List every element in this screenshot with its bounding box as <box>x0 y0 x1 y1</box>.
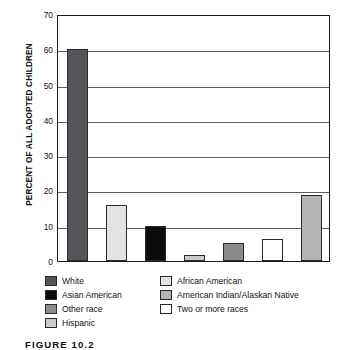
legend-item-african-american[interactable]: African American <box>160 276 335 286</box>
legend-swatch-asian-american <box>45 290 57 300</box>
y-tick-label-30: 30 <box>44 151 53 161</box>
legend-label-hispanic: Hispanic <box>62 319 95 328</box>
bar-hispanic <box>184 255 205 261</box>
bar-african-american <box>106 205 127 261</box>
legend-label-african-american: African American <box>177 277 242 286</box>
legend-swatch-other-race <box>45 304 57 314</box>
legend-item-hispanic[interactable]: Hispanic <box>45 318 160 328</box>
figure-caption: FIGURE 10.2 <box>25 339 95 350</box>
legend-label-two-or-more-races: Two or more races <box>177 305 248 314</box>
legend-item-white[interactable]: White <box>45 276 160 286</box>
legend-item-american-indian-alaskan-native[interactable]: American Indian/Alaskan Native <box>160 290 335 300</box>
legend-label-white: White <box>62 277 84 286</box>
y-tick-label-20: 20 <box>44 186 53 196</box>
legend-swatch-african-american <box>160 276 172 286</box>
legend-swatch-white <box>45 276 57 286</box>
bar-asian-american <box>145 226 166 261</box>
y-tick-label-60: 60 <box>44 45 53 55</box>
legend-label-other-race: Other race <box>62 305 103 314</box>
bar-two-or-more-races <box>262 239 283 261</box>
y-axis-title: PERCENT OF ALL ADOPTED CHILDREN <box>25 10 34 240</box>
plot-area <box>57 15 330 262</box>
legend-label-american-indian-alaskan-native: American Indian/Alaskan Native <box>177 291 299 300</box>
legend-item-other-race[interactable]: Other race <box>45 304 160 314</box>
legend-label-asian-american: Asian American <box>62 291 122 300</box>
y-tick-label-70: 70 <box>44 10 53 20</box>
legend-swatch-two-or-more-races <box>160 304 172 314</box>
legend-swatch-hispanic <box>45 318 57 328</box>
y-tick-label-50: 50 <box>44 81 53 91</box>
y-tick-label-40: 40 <box>44 116 53 126</box>
bar-other-race <box>223 243 244 261</box>
legend-item-two-or-more-races[interactable]: Two or more races <box>160 304 335 314</box>
y-tick-label-10: 10 <box>44 222 53 232</box>
bars-group <box>58 16 329 261</box>
chart-legend: WhiteAfrican AmericanAsian AmericanAmeri… <box>45 274 335 330</box>
legend-item-asian-american[interactable]: Asian American <box>45 290 160 300</box>
bar-white <box>67 49 88 261</box>
y-tick-label-0: 0 <box>48 257 53 267</box>
legend-swatch-american-indian-alaskan-native <box>160 290 172 300</box>
bar-american-indian-alaskan-native <box>301 195 322 261</box>
